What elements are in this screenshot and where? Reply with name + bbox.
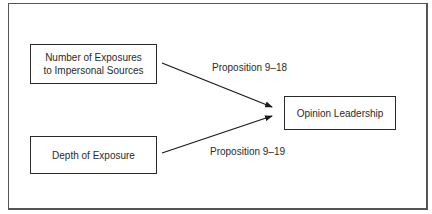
- node-depth-of-exposure: Depth of Exposure: [30, 136, 157, 174]
- node-number-of-exposures: Number of Exposures to Impersonal Source…: [30, 44, 157, 84]
- node-opinion-leadership: Opinion Leadership: [284, 96, 396, 130]
- edge-label-9-18: Proposition 9–18: [212, 62, 287, 73]
- node-label: Depth of Exposure: [52, 149, 135, 162]
- node-label: Opinion Leadership: [297, 107, 384, 120]
- edge-label-9-19: Proposition 9–19: [210, 146, 285, 157]
- node-label: Number of Exposures to Impersonal Source…: [43, 51, 143, 77]
